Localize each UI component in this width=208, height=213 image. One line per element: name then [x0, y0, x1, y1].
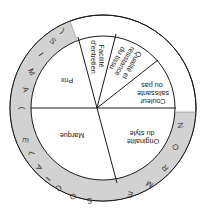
- segment-marque: Marque: [60, 131, 84, 140]
- ring-letter: S: [86, 196, 93, 206]
- label-originalite: Originalité du style: [125, 129, 159, 146]
- pie-diagram: Prix Facilité d'entretien Qualité et rés…: [0, 0, 208, 213]
- label-facilite: Facilité d'entretien: [89, 40, 106, 73]
- ring-letter: (: [18, 107, 27, 110]
- segment-originalite: Originalité du style: [125, 129, 159, 146]
- label-marque: Marque: [60, 131, 84, 140]
- segment-prix: Prix: [60, 76, 73, 85]
- label-prix: Prix: [60, 76, 73, 85]
- segment-facilite: Facilité d'entretien: [89, 40, 106, 73]
